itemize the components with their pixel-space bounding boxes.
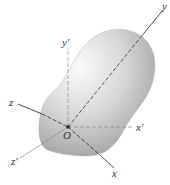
- z-axis-outside: [18, 104, 42, 114]
- x-label: x: [111, 167, 117, 179]
- y-prime-label: y': [61, 36, 70, 48]
- y-label: y: [161, 0, 167, 12]
- origin-label: O: [63, 129, 71, 141]
- rigid-body: [39, 29, 155, 156]
- y-axis-outside: [140, 10, 163, 38]
- x-prime-label: x': [135, 121, 144, 133]
- z-label: z: [8, 96, 14, 108]
- diagram-canvas: O y x z y' x' z': [0, 0, 170, 185]
- z-prime-label: z': [10, 155, 18, 167]
